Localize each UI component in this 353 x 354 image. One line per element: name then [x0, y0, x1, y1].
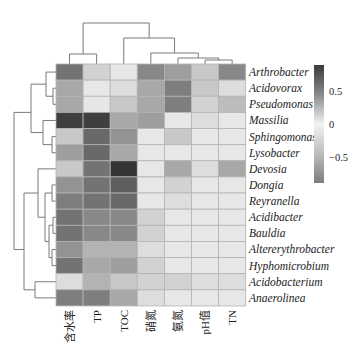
heatmap-cell	[192, 290, 219, 306]
dendrogram-branch	[124, 38, 175, 64]
heatmap-cell	[56, 209, 83, 225]
heatmap-cell	[164, 96, 191, 112]
clustered-heatmap: ArthrobacterAcidovoraxPseudomonasMassili…	[0, 0, 353, 354]
heatmap-cell	[110, 258, 137, 274]
heatmap-cell	[192, 145, 219, 161]
heatmap-cell	[192, 225, 219, 241]
colorbar-gradient	[314, 65, 324, 183]
dendrogram-branch	[43, 120, 56, 144]
row-label: Dongia	[248, 179, 284, 192]
dendrogram-branch	[14, 112, 31, 249]
heatmap-cell	[137, 145, 164, 161]
row-label: Bauldia	[249, 227, 286, 239]
dendrogram-branch	[70, 54, 97, 64]
heatmap-cell	[83, 177, 110, 193]
heatmap-cell	[137, 274, 164, 290]
heatmap-cell	[56, 274, 83, 290]
heatmap-cell	[219, 80, 246, 96]
heatmap-cell	[164, 274, 191, 290]
dendrogram-branch	[31, 84, 46, 132]
dendrogram-branch	[46, 72, 56, 96]
heatmap-cell	[164, 177, 191, 193]
column-label: pH值	[199, 310, 211, 334]
colorbar-ticks: 0.50−0.5	[329, 86, 348, 163]
heatmap-cell	[110, 96, 137, 112]
heatmap-cell	[192, 209, 219, 225]
heatmap-cell	[219, 225, 246, 241]
heatmap-cell	[219, 129, 246, 145]
heatmap-cell	[164, 225, 191, 241]
heatmap-cell	[83, 241, 110, 257]
heatmap-cell	[164, 112, 191, 128]
column-labels: 含水率TPTOC硝氮氨氮pH值TN	[63, 310, 239, 343]
heatmap-cell	[137, 177, 164, 193]
heatmap-cell	[192, 274, 219, 290]
heatmap-cell	[110, 177, 137, 193]
row-label: Lysobacter	[248, 147, 300, 160]
heatmap-cell	[83, 274, 110, 290]
heatmap-cell	[83, 112, 110, 128]
heatmap-cell	[164, 161, 191, 177]
row-label: Altererythrobacter	[248, 243, 335, 256]
dendrogram-branch	[24, 193, 38, 290]
heatmap-cell	[219, 241, 246, 257]
dendrogram-branch	[52, 249, 56, 265]
row-label: Hyphomicrobium	[248, 260, 329, 273]
row-dendrogram	[14, 72, 56, 298]
row-label: Anaerolinea	[248, 292, 306, 304]
heatmap-cell	[192, 258, 219, 274]
heatmap-cell	[56, 290, 83, 306]
heatmap-cell	[83, 209, 110, 225]
heatmap-cell	[56, 96, 83, 112]
heatmap-cell	[56, 225, 83, 241]
heatmap-cell	[56, 112, 83, 128]
heatmap-cell	[83, 193, 110, 209]
heatmap-cell	[110, 145, 137, 161]
heatmap-cell	[137, 290, 164, 306]
heatmap-cell	[83, 290, 110, 306]
heatmap-cell	[110, 225, 137, 241]
colorbar-tick-label: −0.5	[329, 152, 348, 163]
heatmap-cell	[110, 112, 137, 128]
heatmap-cell	[192, 241, 219, 257]
colorbar	[314, 65, 324, 183]
row-label: Arthrobacter	[248, 66, 309, 78]
heatmap-cell	[219, 258, 246, 274]
heatmap-cell	[137, 209, 164, 225]
heatmap-cell	[192, 129, 219, 145]
heatmap-cell	[83, 145, 110, 161]
dendrogram-branch	[205, 60, 232, 64]
heatmap-cell	[110, 193, 137, 209]
heatmap-cell	[56, 145, 83, 161]
dendrogram-branch	[53, 88, 56, 104]
row-label: Devosia	[248, 163, 287, 175]
heatmap-cell	[137, 193, 164, 209]
heatmap-cell	[110, 274, 137, 290]
heatmap-cell	[164, 241, 191, 257]
heatmap-cell	[56, 241, 83, 257]
column-label: 含水率	[63, 310, 76, 343]
colorbar-tick-label: 0.5	[329, 86, 342, 97]
heatmap-cell	[137, 225, 164, 241]
heatmap-cell	[110, 290, 137, 306]
heatmap-cell	[192, 96, 219, 112]
dendrogram-branch	[52, 137, 56, 153]
heatmap-cell	[56, 80, 83, 96]
heatmap-cell	[219, 290, 246, 306]
dendrogram-branch	[52, 185, 56, 201]
heatmap-cell	[137, 112, 164, 128]
column-dendrogram	[70, 23, 233, 64]
heatmap-cell	[137, 258, 164, 274]
heatmap-cell	[164, 129, 191, 145]
heatmap-cell	[137, 161, 164, 177]
heatmap-cell	[83, 258, 110, 274]
heatmap-cell	[83, 129, 110, 145]
row-label: Sphingomonas	[249, 131, 317, 144]
heatmap-cell	[219, 161, 246, 177]
heatmap-cell	[137, 96, 164, 112]
column-label: 硝氮	[144, 310, 157, 332]
heatmap-cell	[56, 193, 83, 209]
row-label: Acidobacterium	[248, 276, 322, 288]
dendrogram-branch	[35, 282, 56, 298]
row-label: Massilia	[248, 114, 289, 126]
